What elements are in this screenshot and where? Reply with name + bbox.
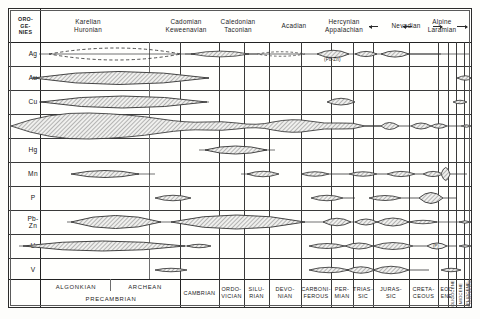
column-rule bbox=[331, 42, 332, 279]
period-label: CAMBRIAN bbox=[184, 290, 216, 297]
element-name: Hg bbox=[28, 146, 37, 153]
period-label: TRIAS- bbox=[353, 286, 373, 293]
period-label: CEOUS bbox=[413, 293, 434, 300]
orogeny-label: Hercynian bbox=[328, 18, 359, 26]
element-name: Au bbox=[29, 74, 38, 81]
epoch-pleistocene: PLEISTOCENE bbox=[469, 279, 471, 307]
column-rule bbox=[409, 42, 410, 279]
element-name: Zn bbox=[29, 222, 37, 229]
period-permian: PER- MIAN bbox=[331, 281, 353, 305]
period-jurassic: JURAS- SIC bbox=[373, 281, 409, 305]
annotation-text: (P) bbox=[433, 243, 439, 248]
column-rule bbox=[149, 42, 150, 279]
nevadian-left-arrow bbox=[369, 26, 378, 27]
period-label: SIC bbox=[358, 293, 368, 300]
epoch-miocene: MIOCENE bbox=[456, 279, 464, 307]
chart-root: ORO- GE- NIES Karelian Huronian Cadomian… bbox=[0, 0, 480, 319]
corner-line-2: NIES bbox=[19, 29, 33, 35]
annotation-p-note: (P) bbox=[433, 243, 439, 248]
orogeny-label: Alpine bbox=[432, 18, 451, 26]
epoch-label: PLEISTOCENE bbox=[468, 279, 472, 306]
chart-frame: ORO- GE- NIES Karelian Huronian Cadomian… bbox=[8, 8, 472, 308]
column-rule bbox=[219, 42, 220, 279]
row-rule bbox=[9, 186, 471, 187]
period-cambrian: CAMBRIAN bbox=[180, 281, 219, 305]
header-bottom-rule bbox=[9, 42, 471, 43]
orogeny-karelian-huronian: Karelian Huronian bbox=[40, 10, 136, 42]
period-cretaceous: CRETA- CEOUS bbox=[409, 281, 438, 305]
orogeny-label: Karelian bbox=[75, 18, 100, 26]
orogeny-label: Laramian bbox=[428, 26, 457, 34]
column-rule bbox=[301, 42, 302, 279]
period-ordovician: ORDO- VICIAN bbox=[219, 281, 244, 305]
element-label-U: U bbox=[18, 234, 48, 258]
column-rule bbox=[456, 42, 457, 279]
series-P bbox=[155, 193, 457, 204]
element-label-Mn: Mn bbox=[18, 162, 48, 186]
period-label: SIC bbox=[386, 293, 396, 300]
period-label: CARBONI- bbox=[301, 286, 331, 293]
series-Cu bbox=[39, 96, 467, 108]
period-label: ALGONKIAN bbox=[56, 284, 97, 291]
element-label-P: P bbox=[18, 186, 48, 210]
column-rule bbox=[180, 42, 181, 279]
period-label: ARCHEAN bbox=[128, 284, 162, 291]
series-V bbox=[155, 266, 461, 274]
period-devonian: DEVO- NIAN bbox=[269, 281, 301, 305]
period-label: PRECAMBRIAN bbox=[86, 296, 137, 303]
element-name: P bbox=[31, 194, 36, 201]
orogeny-label: Acadian bbox=[282, 22, 307, 30]
period-label: MIAN bbox=[334, 293, 349, 300]
series-U bbox=[19, 241, 471, 251]
element-label-PbZn: Pb- Zn bbox=[18, 210, 48, 234]
column-rule bbox=[269, 42, 270, 279]
row-rule bbox=[9, 162, 471, 163]
period-label: CRETA- bbox=[412, 286, 434, 293]
period-label: VICIAN bbox=[221, 293, 241, 300]
element-name: Mn bbox=[28, 170, 38, 177]
period-label: JURAS- bbox=[380, 286, 402, 293]
element-name: Fe bbox=[29, 122, 37, 129]
series-Ag bbox=[39, 48, 469, 60]
series-Au bbox=[31, 72, 471, 85]
element-label-Cu: Cu bbox=[18, 90, 48, 114]
element-name: Pb- bbox=[27, 215, 38, 222]
epoch-label: MIOCENE bbox=[458, 283, 463, 304]
alpine-left-arrow bbox=[403, 26, 412, 27]
epoch-oligocene: OLIGOCENE bbox=[448, 279, 456, 307]
period-label: SILU- bbox=[249, 286, 265, 293]
period-label: ORDO- bbox=[221, 286, 241, 293]
period-triassic: TRIAS- SIC bbox=[353, 281, 373, 305]
element-label-V: V bbox=[18, 258, 48, 282]
series-Hg bbox=[199, 146, 275, 154]
column-rule bbox=[353, 42, 354, 279]
row-rule bbox=[9, 66, 471, 67]
period-silurian: SILU- RIAN bbox=[244, 281, 269, 305]
alpine-right-arrow bbox=[457, 26, 467, 27]
period-label: FEROUS bbox=[303, 293, 328, 300]
element-label-Au: Au bbox=[18, 66, 48, 90]
column-rule bbox=[448, 42, 449, 279]
period-label: PER- bbox=[335, 286, 350, 293]
annotation-text: (Pb-Zn) bbox=[324, 57, 341, 62]
column-rule bbox=[244, 42, 245, 279]
row-rule bbox=[9, 210, 471, 211]
row-rule bbox=[9, 90, 471, 91]
footer-top-rule bbox=[9, 279, 471, 280]
orogeny-label: Huronian bbox=[74, 26, 102, 34]
period-label: RIAN bbox=[249, 293, 264, 300]
row-rule bbox=[9, 234, 471, 235]
epoch-label: OLIGOCENE bbox=[450, 280, 455, 307]
period-precambrian: PRECAMBRIAN bbox=[42, 293, 180, 305]
row-rule bbox=[9, 114, 471, 115]
plot-shapes bbox=[9, 9, 471, 307]
period-archean: ARCHEAN bbox=[110, 281, 180, 293]
period-carboniferous: CARBONI- FEROUS bbox=[301, 281, 331, 305]
element-label-Hg: Hg bbox=[18, 138, 48, 162]
orogeny-label: Caledonian bbox=[221, 18, 256, 26]
corner-orogenies-header: ORO- GE- NIES bbox=[11, 10, 40, 42]
period-label: NIAN bbox=[278, 293, 293, 300]
row-rule bbox=[9, 138, 471, 139]
column-rule bbox=[373, 42, 374, 279]
series-Fe bbox=[11, 113, 471, 139]
